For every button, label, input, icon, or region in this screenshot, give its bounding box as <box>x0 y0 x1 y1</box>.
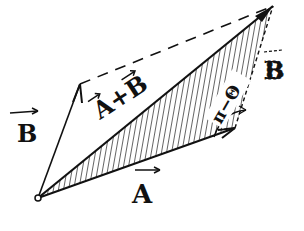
vector-diagram: B A+B π−Θ A B <box>0 0 304 231</box>
label-a-bottom: A <box>131 179 153 209</box>
origin-point <box>35 195 41 201</box>
label-b-right-overarrow <box>264 50 282 52</box>
vector-b-arrowhead-icon <box>73 84 82 103</box>
label-b-right: B <box>264 56 284 85</box>
label-b-left: B <box>17 119 37 148</box>
